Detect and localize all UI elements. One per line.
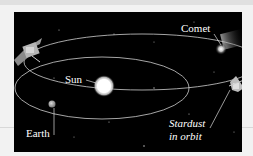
sun-label: Sun [65, 74, 82, 85]
comet-leader [214, 34, 221, 45]
stardust-spacecraft-left-icon [14, 38, 42, 66]
earth-icon [49, 101, 56, 108]
sun-icon [93, 75, 115, 97]
outer-orbit [24, 34, 242, 90]
stardust-label-line1: Stardust [169, 118, 205, 129]
stardust-spacecraft-right-icon [229, 76, 242, 92]
solar-system-diagram: Comet Sun Earth Stardust in orbit [14, 12, 242, 152]
stardust-leader [210, 90, 230, 128]
earth-label: Earth [26, 128, 50, 139]
comet-label: Comet [181, 23, 210, 34]
stardust-label-line2: in orbit [169, 131, 202, 142]
page-top-strip [0, 0, 253, 5]
